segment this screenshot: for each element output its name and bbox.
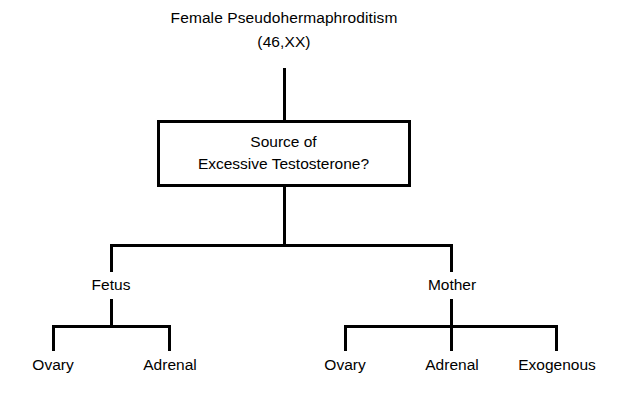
decision-line2: Excessive Testosterone? — [198, 153, 369, 175]
branch-node-fetus: Fetus — [92, 277, 131, 293]
leaf-node-mother-exogenous: Exogenous — [518, 357, 596, 373]
decision-node-text: Source of Excessive Testosterone? — [157, 120, 410, 186]
connector-lines — [0, 0, 630, 401]
root-title-line1: Female Pseudohermaphroditism — [171, 9, 398, 26]
flowchart-diagram: Female Pseudohermaphroditism (46,XX) Sou… — [0, 0, 630, 401]
leaf-node-mother-adrenal: Adrenal — [425, 357, 478, 373]
branch-node-mother: Mother — [428, 277, 476, 293]
leaf-node-mother-ovary: Ovary — [324, 357, 365, 373]
leaf-node-fetus-adrenal: Adrenal — [143, 357, 196, 373]
root-node-title: Female Pseudohermaphroditism (46,XX) — [171, 10, 398, 49]
root-title-line2: (46,XX) — [171, 34, 398, 50]
leaf-node-fetus-ovary: Ovary — [32, 357, 73, 373]
decision-line1: Source of — [250, 131, 316, 153]
